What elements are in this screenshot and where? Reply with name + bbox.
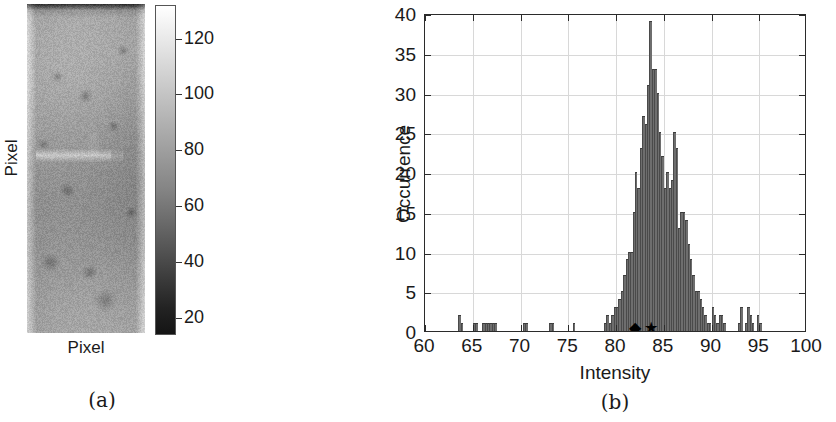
x-tick [759, 325, 760, 331]
x-tick [568, 325, 569, 331]
x-tick [759, 15, 760, 21]
y-tick-label: 40 [370, 5, 416, 24]
star-marker: ★ [643, 320, 659, 332]
y-tick [425, 254, 431, 255]
y-tick [799, 174, 805, 175]
y-tick [799, 293, 805, 294]
x-tick [664, 15, 665, 21]
x-tick-label: 100 [779, 336, 833, 355]
x-tick [521, 15, 522, 21]
x-axis-label: Intensity [424, 362, 806, 384]
x-tick [473, 15, 474, 21]
colorbar-tick [176, 318, 182, 319]
panel-b-histogram: ◆★ 6065707580859095100 0510152025303540 … [370, 0, 836, 422]
y-tick [799, 95, 805, 96]
x-tick [712, 325, 713, 331]
y-tick [799, 214, 805, 215]
y-tick [425, 15, 431, 16]
histogram-bar [494, 323, 496, 331]
histogram-bar [573, 323, 575, 331]
panel-a-ylabel: Pixel [2, 128, 22, 188]
y-tick-label: 0 [370, 323, 416, 342]
y-tick [425, 95, 431, 96]
histogram-bar [525, 323, 527, 331]
colorbar [155, 5, 176, 335]
x-tick [568, 15, 569, 21]
y-tick [799, 15, 805, 16]
colorbar-tick [176, 94, 182, 95]
histogram-bar [752, 323, 754, 331]
x-tick [664, 325, 665, 331]
colorbar-tick [176, 262, 182, 263]
colorbar-tick-label: 120 [184, 29, 214, 47]
colorbar-tick-label: 100 [184, 84, 214, 102]
y-tick [425, 174, 431, 175]
colorbar-tick-label: 40 [184, 252, 204, 270]
histogram-bar [740, 307, 742, 331]
colorbar-tick [176, 150, 182, 151]
y-tick [799, 55, 805, 56]
x-tick-label: 90 [684, 336, 738, 355]
grayscale-texture-image [27, 4, 145, 333]
histogram-bars [425, 15, 805, 331]
colorbar-tick-label: 80 [184, 140, 204, 158]
y-tick [425, 55, 431, 56]
colorbar-tick [176, 206, 182, 207]
panel-a-caption: (a) [27, 388, 177, 412]
y-tick [799, 254, 805, 255]
x-tick [473, 325, 474, 331]
y-tick-label: 5 [370, 283, 416, 302]
y-tick-label: 35 [370, 45, 416, 64]
x-tick [616, 325, 617, 331]
histogram-bar [475, 323, 477, 331]
y-tick [425, 134, 431, 135]
panel-a-image: Pixel Pixel 12010080604020 (a) [0, 0, 370, 422]
plot-axes: ◆★ [424, 14, 806, 332]
x-tick-label: 95 [731, 336, 785, 355]
panel-b-caption: (b) [424, 390, 806, 414]
colorbar-tick-label: 20 [184, 308, 204, 326]
x-tick [425, 325, 426, 331]
x-tick-label: 75 [540, 336, 594, 355]
y-tick [425, 293, 431, 294]
colorbar-tick-label: 60 [184, 196, 204, 214]
histogram-bar [552, 323, 554, 331]
x-tick-label: 65 [445, 336, 499, 355]
panel-a-xlabel: Pixel [27, 338, 145, 358]
x-tick [616, 15, 617, 21]
histogram-bar [461, 323, 463, 331]
y-axis-label: Occurrence [393, 79, 415, 269]
colorbar-tick [176, 39, 182, 40]
histogram-bar [723, 323, 725, 331]
x-tick-label: 85 [636, 336, 690, 355]
diamond-marker: ◆ [627, 320, 643, 332]
x-tick [521, 325, 522, 331]
y-tick [799, 134, 805, 135]
x-tick-label: 70 [493, 336, 547, 355]
x-tick [712, 15, 713, 21]
x-tick-label: 80 [588, 336, 642, 355]
y-tick [425, 214, 431, 215]
